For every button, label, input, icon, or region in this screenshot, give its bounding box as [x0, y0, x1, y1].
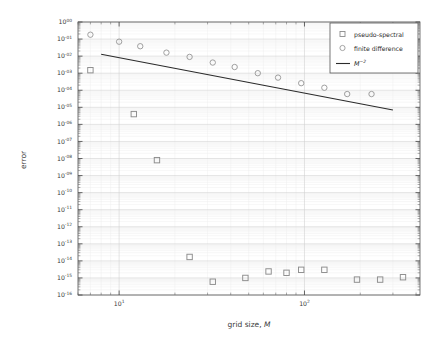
figure-canvas: 100010-0110-0210-0310-0410-0510-0610-071…	[0, 0, 444, 345]
x-axis-label-symbol: M	[264, 320, 271, 329]
legend-m-exponent: −2	[360, 59, 367, 64]
legend-box[interactable]: pseudo-spectral finite difference M−2	[330, 23, 418, 73]
x-axis-label-text: grid size,	[228, 320, 264, 329]
y-axis-label-group: error	[19, 150, 28, 169]
legend-label-finite-difference: finite difference	[354, 45, 403, 52]
y-axis-label: error	[19, 150, 28, 169]
x-axis-label: grid size, M	[228, 320, 271, 329]
log-log-error-plot: 100010-0110-0210-0310-0410-0510-0610-071…	[0, 0, 444, 345]
legend-label-pseudo-spectral: pseudo-spectral	[354, 31, 404, 39]
x-axis-label-group: grid size, M	[228, 320, 271, 329]
